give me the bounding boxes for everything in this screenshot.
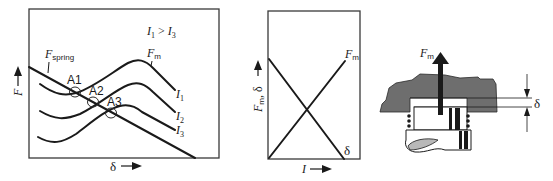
point-label-a3: A3 [107,95,122,109]
coil-dots-left [407,114,411,128]
plunger-bar-thin [449,108,452,130]
plunger-bar-thick [455,108,460,130]
y-axis-arrow-icon [14,66,22,76]
figure-c-solenoid-sketch: Fm δ [380,46,540,152]
spring-label: Fspring [44,47,74,62]
x-axis-label: δ [110,159,116,174]
point-label-a1: A1 [67,73,82,87]
magnet-label-leader [151,61,152,66]
housing-bar-thin [459,131,462,149]
x-axis-arrow-icon-b [322,165,332,173]
spring-force-line [29,67,195,158]
y-axis-label-b: Fm, δ [251,86,266,113]
fm-line-label: Fm [344,47,359,62]
curve-label-i3: I3 [175,123,184,139]
figure-b-current-plot: Fm, δ I Fm δ [251,11,360,176]
y-axis-arrow-icon-b [254,60,262,70]
electromagnet-diagram: I1 > I3 F δ Fspring Fm I1 I2 I3 A1 A2 A3 [0,0,553,181]
point-label-a2: A2 [89,84,104,98]
force-arrow-shaft [438,62,443,115]
figure-b-frame [268,11,360,159]
delta-line-label: δ [344,143,350,158]
curve-label-i1: I1 [175,87,184,103]
spring-label-leader [48,62,49,73]
housing-bar-thick [464,131,468,149]
gap-arrow-bottom-icon [524,107,530,116]
x-axis-label-b: I [301,162,307,176]
gap-label: δ [534,96,540,111]
figure-a-force-stroke-plot: I1 > I3 F δ Fspring Fm I1 I2 I3 A1 A2 A3 [11,9,219,174]
magnet-curve-i1 [40,60,175,94]
coil-dots-right [466,114,470,128]
x-axis-arrow-icon [132,162,142,170]
force-arrow-icon [432,52,449,64]
y-axis-label: F [11,88,25,97]
force-label: Fm [419,46,434,61]
gap-arrow-top-icon [524,89,530,98]
magnet-force-label: Fm [146,46,161,61]
condition-label: I1 > I3 [146,24,176,40]
